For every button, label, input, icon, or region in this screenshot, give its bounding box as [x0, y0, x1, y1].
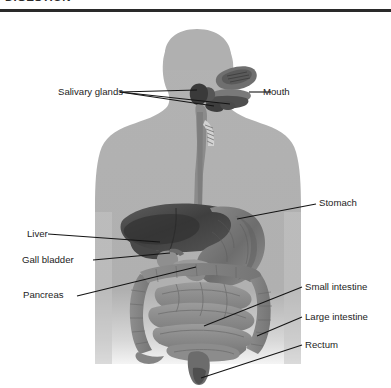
label-small-intestine: Small intestine: [305, 281, 367, 292]
label-rectum: Rectum: [305, 339, 338, 350]
label-salivary-glands: Salivary glands: [58, 86, 123, 97]
label-large-intestine: Large intestine: [305, 311, 368, 322]
label-liver: Liver: [27, 228, 48, 239]
label-stomach: Stomach: [319, 197, 357, 208]
label-mouth: Mouth: [263, 86, 290, 97]
label-pancreas: Pancreas: [23, 289, 64, 300]
digestion-figure-page: DIGESTION: [0, 0, 391, 388]
label-gall-bladder: Gall bladder: [22, 254, 74, 265]
page-heading-clipped: DIGESTION: [5, 0, 71, 5]
rectum: [188, 351, 210, 385]
